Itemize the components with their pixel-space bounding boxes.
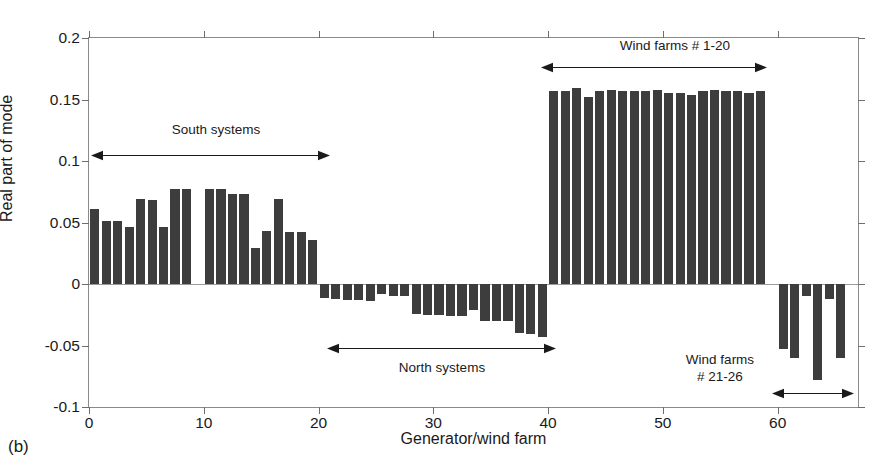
bar — [308, 240, 317, 284]
y-tick — [82, 407, 89, 408]
y-tick-label: -0.05 — [45, 337, 80, 355]
x-tick — [663, 31, 664, 38]
bar — [469, 284, 478, 310]
panel-label: (b) — [8, 437, 29, 457]
y-tick-label: -0.1 — [53, 398, 80, 416]
bar — [400, 284, 409, 296]
bar — [825, 284, 834, 299]
bar — [733, 91, 742, 284]
bar — [653, 90, 662, 284]
bar — [561, 91, 570, 284]
bar — [549, 91, 558, 284]
bar — [538, 284, 547, 337]
x-tick — [89, 31, 90, 38]
y-tick — [858, 223, 865, 224]
bar — [434, 284, 443, 315]
bar — [446, 284, 455, 316]
x-tick — [778, 31, 779, 38]
annotation-wind-farms-21-26-arrow — [772, 388, 854, 399]
bar — [756, 91, 765, 284]
annotation-wind-farms-21-26: Wind farms # 21-26 — [650, 352, 790, 386]
x-axis-title: Generator/wind farm — [88, 430, 859, 448]
bar — [572, 88, 581, 284]
y-tick-label: 0.2 — [58, 29, 80, 47]
annotation-wind-farms-1-20-arrow — [541, 62, 767, 73]
y-tick — [82, 38, 89, 39]
y-tick-label: 0.15 — [50, 91, 80, 109]
bar — [412, 284, 421, 314]
bar — [480, 284, 489, 321]
y-tick — [858, 100, 865, 101]
y-tick-label: 0.1 — [58, 152, 80, 170]
y-tick — [858, 346, 865, 347]
y-tick — [858, 38, 865, 39]
bar — [618, 91, 627, 284]
y-tick-label: 0.05 — [50, 214, 80, 232]
y-tick-label: 0 — [71, 275, 80, 293]
bar — [125, 227, 134, 284]
bar — [607, 90, 616, 284]
y-tick — [858, 407, 865, 408]
bar — [366, 284, 375, 301]
bar — [216, 189, 225, 284]
bar — [802, 284, 811, 296]
bar — [664, 93, 673, 284]
bar — [630, 91, 639, 284]
bar — [595, 91, 604, 284]
bar — [779, 284, 788, 349]
bar — [170, 189, 179, 284]
bar — [790, 284, 799, 358]
bar — [813, 284, 822, 380]
bar — [251, 248, 260, 284]
y-tick — [82, 346, 89, 347]
bar — [698, 91, 707, 284]
bar — [343, 284, 352, 300]
x-tick — [548, 407, 549, 414]
x-tick — [89, 407, 90, 414]
bar — [297, 232, 306, 284]
x-tick — [663, 407, 664, 414]
bar — [148, 200, 157, 284]
bar — [331, 284, 340, 299]
bar — [182, 189, 191, 284]
bar — [274, 199, 283, 284]
bar — [503, 284, 512, 321]
bar — [744, 93, 753, 284]
y-axis-title: Real part of mode — [0, 95, 16, 222]
bar — [262, 231, 271, 284]
bar — [228, 194, 237, 284]
bar — [90, 209, 99, 284]
x-tick — [433, 407, 434, 414]
y-tick — [858, 161, 865, 162]
annotation-wind-farms-1-20: Wind farms # 1-20 — [560, 38, 790, 55]
bar — [285, 232, 294, 284]
bar — [676, 93, 685, 284]
y-tick — [82, 100, 89, 101]
x-tick — [319, 31, 320, 38]
figure-panel-b: Real part of mode -0.1-0.0500.050.10.150… — [0, 0, 889, 470]
bar — [721, 91, 730, 284]
bar — [354, 284, 363, 300]
x-tick — [319, 407, 320, 414]
x-tick — [204, 31, 205, 38]
annotation-south-arrow — [91, 150, 330, 161]
bar — [205, 189, 214, 284]
bar — [641, 91, 650, 284]
bar — [113, 221, 122, 284]
bar — [377, 284, 386, 294]
bar — [515, 284, 524, 333]
bar — [457, 284, 466, 316]
bar — [492, 284, 501, 321]
y-tick — [82, 284, 89, 285]
annotation-north-arrow — [327, 343, 556, 354]
bar — [526, 284, 535, 334]
x-tick — [204, 407, 205, 414]
annotation-south-systems: South systems — [106, 122, 326, 139]
x-tick — [778, 407, 779, 414]
bar — [389, 284, 398, 296]
bar — [687, 95, 696, 284]
y-tick — [82, 223, 89, 224]
y-tick — [858, 284, 865, 285]
x-tick — [433, 31, 434, 38]
bar — [320, 284, 329, 298]
